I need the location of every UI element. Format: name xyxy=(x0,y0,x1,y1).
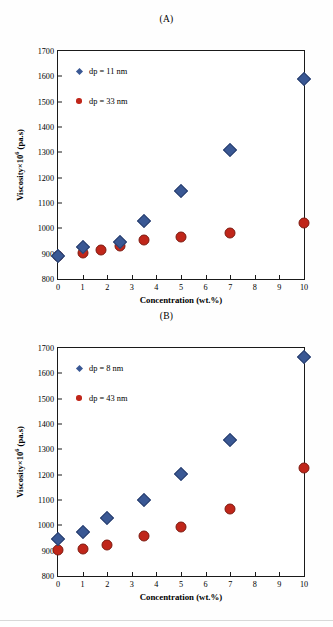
panel-a-title: (A) xyxy=(0,14,333,24)
panel-b-y-tick-label: 800 xyxy=(42,572,54,581)
data-point-panel-a-s0 xyxy=(137,214,151,228)
panel-b-x-tick-mark xyxy=(230,572,231,576)
panel-b-x-tick-mark xyxy=(206,572,207,576)
panel-b-x-tick-mark xyxy=(83,572,84,576)
panel-a-y-tick-label: 1100 xyxy=(38,199,54,208)
data-point-panel-b-s0 xyxy=(76,525,90,539)
panel-b-x-tick-label: 3 xyxy=(130,580,134,589)
panel-b-y-tick-mark xyxy=(58,373,62,374)
panel-b-x-tick-label: 0 xyxy=(56,580,60,589)
panel-b-legend-item: dp = 8 nm xyxy=(72,360,127,376)
panel-b-y-tick-label: 1700 xyxy=(38,344,54,353)
panel-b-y-tick-mark xyxy=(58,424,62,425)
panel-b-x-tick-mark xyxy=(181,572,182,576)
panel-a-x-tick-label: 7 xyxy=(228,283,232,292)
panel-a-x-tick-label: 4 xyxy=(154,283,158,292)
panel-a-legend-item: dp = 33 nm xyxy=(72,93,127,109)
panel-a-y-tick-label: 1400 xyxy=(38,123,54,132)
data-point-panel-a-s1 xyxy=(96,244,107,255)
panel-b-x-tick-label: 4 xyxy=(154,580,158,589)
data-point-panel-b-s0 xyxy=(100,511,114,525)
data-point-panel-a-s1 xyxy=(139,235,150,246)
data-point-panel-b-s1 xyxy=(102,539,113,550)
panel-a-x-tick-mark xyxy=(279,275,280,279)
data-point-panel-a-s0 xyxy=(174,184,188,198)
panel-b-y-tick-mark xyxy=(58,500,62,501)
data-point-panel-b-s0 xyxy=(223,433,237,447)
data-point-panel-b-s0 xyxy=(297,350,311,364)
panel-a-x-tick-mark xyxy=(156,275,157,279)
panel-b-legend-label: dp = 8 nm xyxy=(89,364,123,373)
panel-b: (B) Viscosity×106 (pa.s) 800900100011001… xyxy=(0,311,333,611)
panel-a-x-tick-mark xyxy=(83,275,84,279)
panel-a-y-tick-mark xyxy=(58,127,62,128)
panel-b-y-tick-label: 1500 xyxy=(38,394,54,403)
panel-a-x-tick-label: 3 xyxy=(130,283,134,292)
panel-b-plot-area: 8009001000110012001300140015001600170001… xyxy=(57,347,305,577)
panel-b-y-axis-label: Viscosity×106 (pa.s) xyxy=(12,347,26,577)
panel-a-y-tick-mark xyxy=(58,76,62,77)
data-point-panel-a-s0 xyxy=(223,143,237,157)
panel-a-y-tick-label: 1500 xyxy=(38,97,54,106)
data-point-panel-b-s1 xyxy=(299,462,310,473)
panel-b-y-tick-mark xyxy=(58,525,62,526)
panel-a-x-tick-mark xyxy=(206,275,207,279)
data-point-panel-b-s1 xyxy=(176,521,187,532)
panel-b-y-tick-label: 1400 xyxy=(38,420,54,429)
page-footer-rule xyxy=(0,620,333,621)
panel-a-x-tick-mark xyxy=(230,275,231,279)
panel-a-legend-label: dp = 11 nm xyxy=(89,67,127,76)
panel-b-x-tick-label: 10 xyxy=(300,580,308,589)
panel-b-x-tick-mark xyxy=(107,572,108,576)
panel-b-x-axis-label: Concentration (wt.%) xyxy=(57,592,305,602)
panel-b-legend-item: dp = 43 nm xyxy=(72,390,127,406)
panel-a-y-tick-label: 1700 xyxy=(38,47,54,56)
panel-b-x-tick-label: 1 xyxy=(81,580,85,589)
panel-a-x-axis-label: Concentration (wt.%) xyxy=(57,295,305,305)
panel-b-y-tick-mark xyxy=(58,398,62,399)
panel-b-x-tick-label: 9 xyxy=(277,580,281,589)
panel-b-x-tick-mark xyxy=(156,572,157,576)
data-point-panel-b-s0 xyxy=(51,532,65,546)
panel-a-legend-item: dp = 11 nm xyxy=(72,63,127,79)
panel-a-x-tick-label: 2 xyxy=(105,283,109,292)
panel-a-y-tick-mark xyxy=(58,101,62,102)
panel-b-y-tick-mark xyxy=(58,474,62,475)
panel-a-legend-label: dp = 33 nm xyxy=(89,97,127,106)
figure-page: (A) Viscosity×106 (pa.s) 800900100011001… xyxy=(0,0,333,627)
panel-a-x-tick-label: 9 xyxy=(277,283,281,292)
panel-a-x-tick-label: 1 xyxy=(81,283,85,292)
panel-b-x-tick-label: 8 xyxy=(253,580,257,589)
panel-a-x-tick-label: 8 xyxy=(253,283,257,292)
panel-a-y-tick-label: 1200 xyxy=(38,173,54,182)
panel-b-y-tick-label: 1600 xyxy=(38,369,54,378)
panel-b-x-tick-label: 5 xyxy=(179,580,183,589)
panel-a-y-axis-label: Viscosity×106 (pa.s) xyxy=(12,50,26,280)
panel-b-x-tick-mark xyxy=(279,572,280,576)
panel-a-x-tick-mark xyxy=(132,275,133,279)
diamond-marker-icon xyxy=(72,366,86,371)
data-point-panel-b-s0 xyxy=(174,467,188,481)
panel-b-x-tick-label: 2 xyxy=(105,580,109,589)
panel-a-x-tick-mark xyxy=(181,275,182,279)
panel-a-plot-area: 8009001000110012001300140015001600170001… xyxy=(57,50,305,280)
panel-a-x-tick-label: 10 xyxy=(300,283,308,292)
panel-a-y-tick-label: 1600 xyxy=(38,72,54,81)
panel-a-legend: dp = 11 nmdp = 33 nm xyxy=(72,63,127,109)
data-point-panel-a-s0 xyxy=(297,72,311,86)
panel-b-y-tick-label: 1000 xyxy=(38,521,54,530)
data-point-panel-b-s1 xyxy=(77,543,88,554)
panel-b-x-tick-label: 6 xyxy=(204,580,208,589)
panel-a-x-tick-label: 5 xyxy=(179,283,183,292)
panel-a: (A) Viscosity×106 (pa.s) 800900100011001… xyxy=(0,14,333,314)
data-point-panel-b-s1 xyxy=(225,504,236,515)
panel-a-y-tick-mark xyxy=(58,228,62,229)
panel-b-y-tick-label: 1300 xyxy=(38,445,54,454)
panel-b-title: (B) xyxy=(0,311,333,321)
data-point-panel-a-s1 xyxy=(176,232,187,243)
panel-a-y-tick-mark xyxy=(58,203,62,204)
panel-b-x-tick-label: 7 xyxy=(228,580,232,589)
panel-a-x-tick-mark xyxy=(107,275,108,279)
panel-a-x-tick-label: 6 xyxy=(204,283,208,292)
diamond-marker-icon xyxy=(72,69,86,74)
